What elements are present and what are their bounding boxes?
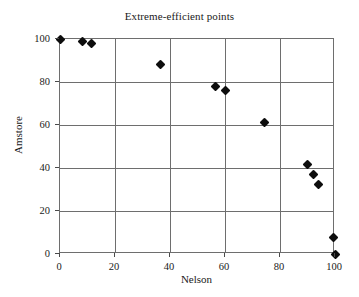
data-point xyxy=(329,233,339,243)
x-tick-mark xyxy=(59,253,60,257)
x-axis-label: Nelson xyxy=(59,273,334,285)
x-tick-mark xyxy=(169,253,170,257)
x-tick-label: 20 xyxy=(94,261,134,272)
data-point xyxy=(260,118,270,128)
y-tick-label: 20 xyxy=(10,205,50,216)
data-point xyxy=(220,86,230,96)
x-tick-mark xyxy=(334,253,335,257)
x-tick-label: 60 xyxy=(204,261,244,272)
data-point xyxy=(87,38,97,48)
x-axis-ticks: 020406080100 xyxy=(59,253,334,275)
x-tick-label: 100 xyxy=(314,261,354,272)
data-point xyxy=(308,169,318,179)
x-tick-label: 80 xyxy=(259,261,299,272)
data-point xyxy=(155,60,165,70)
y-tick-label: 80 xyxy=(10,76,50,87)
y-tick-mark xyxy=(55,124,59,125)
data-point xyxy=(303,160,313,170)
y-tick-mark xyxy=(55,81,59,82)
x-tick-mark xyxy=(224,253,225,257)
y-tick-label: 100 xyxy=(10,33,50,44)
data-point xyxy=(314,179,324,189)
x-tick-mark xyxy=(279,253,280,257)
chart-figure: Extreme-efficient points 020406080100 02… xyxy=(0,0,359,297)
data-point xyxy=(77,36,87,46)
x-tick-label: 0 xyxy=(39,261,79,272)
x-tick-mark xyxy=(114,253,115,257)
plot-area xyxy=(59,38,334,253)
chart-title: Extreme-efficient points xyxy=(0,10,359,22)
x-tick-label: 40 xyxy=(149,261,189,272)
data-points xyxy=(60,39,333,252)
y-tick-mark xyxy=(55,210,59,211)
y-axis-label: Amstore xyxy=(12,95,24,175)
y-tick-label: 0 xyxy=(10,248,50,259)
y-tick-mark xyxy=(55,167,59,168)
y-axis-ticks: 020406080100 xyxy=(0,38,59,253)
data-point xyxy=(210,81,220,91)
y-tick-mark xyxy=(55,38,59,39)
